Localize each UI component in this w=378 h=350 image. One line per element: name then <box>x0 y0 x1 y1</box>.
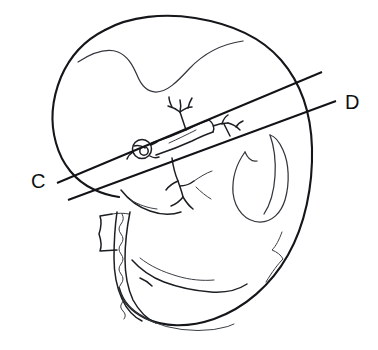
cord-collar-top-edge <box>112 213 129 214</box>
branch-upper-left <box>168 106 180 112</box>
branch-lower-main <box>172 158 183 197</box>
branch-lower-fork-right <box>180 181 194 186</box>
figure-root: C D <box>0 0 378 350</box>
section-line-c <box>57 72 322 183</box>
branching-vessel-upper-group <box>168 97 192 130</box>
limb-bud-group <box>233 135 288 222</box>
head-fold-inner-line <box>78 41 243 92</box>
branch-lower-tail-b <box>171 197 183 206</box>
branch-right-main <box>213 123 228 126</box>
plane-label-d: D <box>345 91 359 113</box>
branch-right-far-tip <box>236 121 243 127</box>
branch-upper-stem <box>180 100 181 112</box>
limb-bud-crease <box>264 135 275 214</box>
body-outline-group <box>53 16 313 326</box>
branch-upper-right <box>180 107 192 112</box>
lower-fold-tip <box>140 278 152 286</box>
plane-label-c: C <box>31 170 45 192</box>
cord-stalk-group <box>114 212 156 323</box>
branching-vessel-lower-group <box>166 158 212 209</box>
branch-upper-left-tip <box>169 97 172 107</box>
branch-lower-thin-b <box>196 187 211 199</box>
section-plane-lines <box>57 72 336 200</box>
lower-fold-inner <box>140 258 214 280</box>
branch-upper-main <box>180 112 186 130</box>
branch-lower-fork-left <box>166 181 178 190</box>
vessel-cross-section-circle <box>133 140 152 159</box>
head-fold-group <box>78 41 243 92</box>
branching-vessel-right-group <box>213 115 243 136</box>
embryo-diagram: C D <box>0 0 378 350</box>
limb-bud-notch <box>245 152 257 161</box>
mid-body-fold-inner <box>131 200 157 209</box>
lower-fold-group <box>132 258 247 292</box>
vessel-link-lower <box>150 156 159 158</box>
mid-body-fold-group <box>121 190 181 214</box>
body-outline <box>105 16 312 326</box>
branch-lower-tail <box>183 197 193 209</box>
limb-bud-loop <box>233 135 288 222</box>
branch-right-down <box>224 124 230 136</box>
section-line-d <box>68 101 336 200</box>
branch-lower-thin <box>194 171 212 181</box>
mid-body-fold <box>121 190 181 214</box>
